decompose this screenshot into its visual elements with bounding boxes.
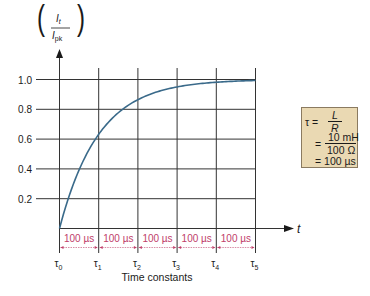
dimension-arrow-icon — [100, 246, 103, 249]
x-tick-label: τ5 — [251, 258, 259, 271]
time-axis-symbol: t — [297, 222, 301, 236]
dimension-arrow-icon — [95, 246, 98, 249]
interval-label: 100 µs — [221, 233, 251, 244]
formula-result: = 100 µs — [315, 156, 356, 167]
dimension-arrow-icon — [61, 246, 64, 249]
x-tick-label: τ1 — [94, 258, 102, 271]
y-tick-label: 0.8 — [18, 104, 32, 115]
dimension-arrow-icon — [139, 246, 142, 249]
x-tick-label: τ2 — [133, 258, 141, 271]
formula-10mH: 10 mH — [328, 132, 359, 143]
dimension-arrow-icon — [252, 246, 255, 249]
response-curve — [60, 81, 256, 229]
x-tick-label: τ4 — [211, 258, 219, 271]
y-tick-label: 0.4 — [18, 164, 32, 175]
ylabel-numerator: It — [56, 13, 62, 25]
x-axis-title: Time constants — [122, 271, 193, 283]
left-paren: ( — [37, 0, 45, 37]
x-axis-arrow-icon — [284, 225, 294, 232]
grid — [36, 49, 294, 253]
y-tick-label: 1.0 — [18, 75, 32, 86]
dimension-arrow-icon — [217, 246, 220, 249]
interval-label: 100 µs — [142, 233, 172, 244]
dimension-arrow-icon — [134, 246, 137, 249]
time-constant-formula-box: τ = L R = 10 mH 100 Ω = 100 µs — [301, 107, 358, 168]
interval-label: 100 µs — [103, 233, 133, 244]
y-axis-arrow-icon — [56, 49, 63, 58]
y-tick-label: 0.6 — [18, 134, 32, 145]
y-tick-label: 0.2 — [18, 194, 32, 205]
formula-100ohm: 100 Ω — [327, 145, 355, 156]
ylabel-denominator: Ipk — [52, 30, 63, 43]
dimension-arrow-icon — [173, 246, 176, 249]
x-tick-label: τ3 — [172, 258, 180, 271]
interval-label: 100 µs — [64, 233, 94, 244]
interval-markers: 100 µs100 µs100 µs100 µs100 µs — [61, 233, 255, 249]
formula-equals: = — [315, 139, 321, 150]
interval-label: 100 µs — [182, 233, 212, 244]
dimension-arrow-icon — [178, 246, 181, 249]
curve-path — [60, 81, 256, 229]
right-paren: ) — [77, 0, 85, 37]
formula-tau-equals: τ = — [305, 117, 318, 128]
x-tick-label: τ0 — [55, 258, 63, 271]
dimension-arrow-icon — [212, 246, 215, 249]
formula-L: L — [332, 110, 338, 121]
